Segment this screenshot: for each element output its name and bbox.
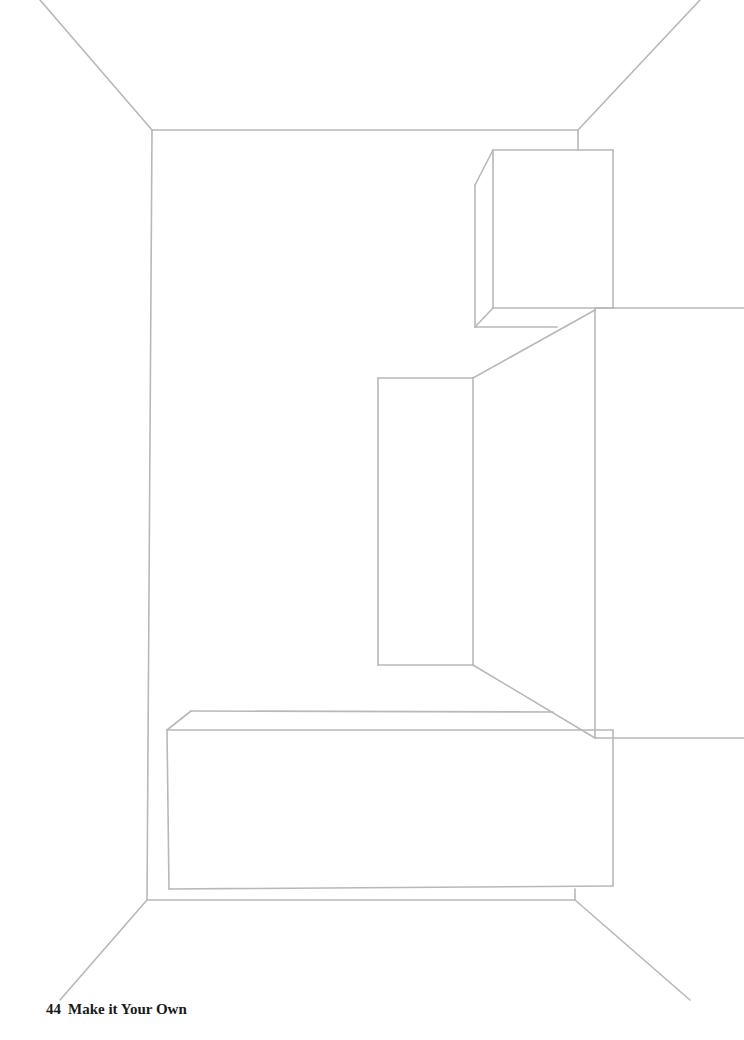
page-title: Make it Your Own [68, 1001, 187, 1017]
drawing-line [40, 0, 152, 130]
drawing-lines [40, 0, 744, 1000]
perspective-room-drawing [0, 0, 744, 1040]
drawing-line [575, 900, 690, 1000]
drawing-line [475, 150, 493, 185]
page-footer: 44Make it Your Own [46, 1001, 187, 1018]
drawing-line [60, 900, 147, 1000]
drawing-line [191, 711, 553, 712]
drawing-line [169, 886, 613, 889]
drawing-line [167, 730, 169, 889]
drawing-line [167, 711, 191, 730]
drawing-line [147, 130, 152, 900]
drawing-line [578, 0, 700, 130]
drawing-line [473, 310, 595, 378]
drawing-line [473, 665, 595, 738]
drawing-line [475, 308, 493, 327]
page-number: 44 [46, 1001, 61, 1017]
